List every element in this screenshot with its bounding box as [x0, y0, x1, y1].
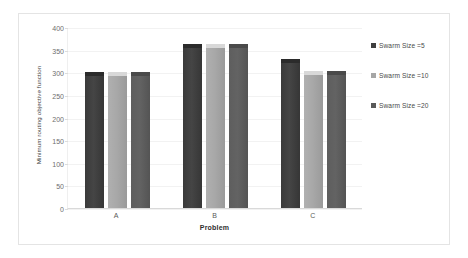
bar-cap: [131, 72, 150, 76]
x-axis-tick-label: C: [310, 212, 315, 219]
bar-body: [85, 75, 104, 208]
bar-body: [281, 62, 300, 208]
bar[interactable]: [206, 44, 225, 208]
x-axis-title: Problem: [67, 224, 362, 231]
y-axis-tick-label: 50: [56, 183, 64, 190]
bar-cap: [183, 44, 202, 48]
bar-body: [206, 47, 225, 208]
chart-legend: Swarm Size =5Swarm Size =10Swarm Size =2…: [371, 40, 449, 130]
gridline: [68, 209, 362, 210]
bar-cap: [327, 71, 346, 75]
legend-label: Swarm Size =5: [379, 42, 425, 49]
y-axis-tick-label: 300: [52, 70, 64, 77]
bar[interactable]: [229, 44, 248, 208]
y-axis-tick-label: 0: [60, 206, 64, 213]
bar-group: [166, 28, 264, 208]
legend-swatch-icon: [371, 43, 376, 48]
bar-cap: [304, 71, 323, 75]
bar-group: [265, 28, 363, 208]
bar-cap: [281, 59, 300, 63]
legend-label: Swarm Size =20: [379, 102, 429, 109]
x-axis-tick-label: B: [212, 212, 217, 219]
y-axis-tick-label: 400: [52, 25, 64, 32]
y-axis-tick-label: 200: [52, 115, 64, 122]
legend-item[interactable]: Swarm Size =20: [371, 100, 449, 110]
bar[interactable]: [131, 72, 150, 208]
legend-label: Swarm Size =10: [379, 72, 429, 79]
x-axis-tick-label: A: [114, 212, 119, 219]
bar-body: [229, 47, 248, 208]
plot-area: 050100150200250300350400: [67, 28, 362, 209]
bar-body: [327, 74, 346, 208]
chart-figure: Minimum routing objective function 05010…: [18, 13, 450, 245]
bar-series-container: [68, 28, 362, 208]
bar-group: [68, 28, 166, 208]
bar-body: [131, 75, 150, 208]
legend-item[interactable]: Swarm Size =5: [371, 40, 449, 50]
y-axis-tick-label: 350: [52, 47, 64, 54]
bar[interactable]: [183, 44, 202, 208]
bar-body: [183, 47, 202, 208]
bar-body: [108, 75, 127, 208]
y-axis-tick-mark: [65, 209, 68, 210]
bar-cap: [206, 44, 225, 48]
legend-swatch-icon: [371, 73, 376, 78]
bar[interactable]: [108, 72, 127, 208]
bar[interactable]: [327, 71, 346, 208]
y-axis-tick-label: 100: [52, 160, 64, 167]
bar-body: [304, 74, 323, 208]
bar-cap: [108, 72, 127, 76]
bar[interactable]: [304, 71, 323, 208]
y-axis-title: Minimum routing objective function: [33, 20, 45, 210]
legend-item[interactable]: Swarm Size =10: [371, 70, 449, 80]
bar[interactable]: [281, 59, 300, 208]
bar[interactable]: [85, 72, 104, 208]
y-axis-tick-label: 150: [52, 138, 64, 145]
y-axis-tick-label: 250: [52, 92, 64, 99]
bar-cap: [229, 44, 248, 48]
bar-cap: [85, 72, 104, 76]
legend-swatch-icon: [371, 103, 376, 108]
